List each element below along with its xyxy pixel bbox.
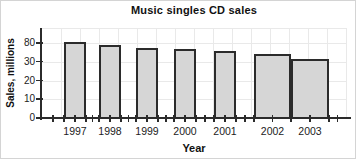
x-tick — [92, 115, 94, 122]
y-tick — [36, 98, 43, 100]
y-tick-label: 10 — [15, 94, 35, 104]
x-tick — [74, 115, 76, 122]
x-tick — [63, 115, 65, 122]
chart-canvas: Music singles CD sales Sales, millions Y… — [0, 0, 356, 159]
x-tick — [253, 115, 255, 122]
bar-2002 — [254, 54, 291, 119]
x-tick — [328, 115, 330, 122]
x-tick — [272, 115, 274, 122]
x-tick — [309, 115, 311, 122]
bar-2000 — [174, 49, 196, 119]
x-axis-title: Year — [42, 142, 346, 154]
x-tick — [128, 115, 130, 122]
x-tick — [213, 115, 215, 122]
bar-1998 — [99, 45, 121, 119]
x-tick — [337, 115, 339, 122]
x-tick — [290, 115, 292, 122]
x-tick — [173, 115, 175, 122]
y-tick — [36, 61, 43, 63]
x-tick — [146, 115, 148, 122]
y-tick-label: 0 — [15, 113, 35, 123]
plot-top-border — [42, 28, 346, 29]
y-tick — [36, 117, 43, 119]
x-tick — [98, 115, 100, 122]
x-tick — [52, 115, 54, 122]
y-tick-label: 30 — [15, 57, 35, 67]
x-tick — [195, 115, 197, 122]
grid-hline — [42, 43, 346, 44]
grid-vline — [61, 28, 62, 118]
x-tick — [109, 115, 111, 122]
x-tick — [184, 115, 186, 122]
bar-1999 — [136, 48, 158, 120]
y-tick — [36, 42, 43, 44]
x-tick — [85, 115, 87, 122]
y-tick-label: 20 — [15, 76, 35, 86]
y-axis-title: Sales, millions — [5, 38, 16, 107]
x-tick — [204, 115, 206, 122]
x-tick — [235, 115, 237, 122]
bar-2001 — [214, 51, 236, 119]
bar-2003 — [291, 59, 329, 119]
y-tick — [36, 80, 43, 82]
x-tick — [244, 115, 246, 122]
x-tick — [120, 115, 122, 122]
x-tick — [157, 115, 159, 122]
grid-vline — [251, 28, 252, 118]
bar-1997 — [64, 42, 86, 119]
y-tick-label: 80 — [15, 38, 35, 48]
grid-vline — [346, 28, 347, 118]
x-axis-line — [37, 117, 351, 119]
x-tick-label: 2001 — [203, 126, 247, 137]
x-tick — [165, 115, 167, 122]
x-tick — [135, 115, 137, 122]
x-tick-label: 2003 — [288, 126, 332, 137]
x-tick — [224, 115, 226, 122]
x-tick-label: 2000 — [163, 126, 207, 137]
chart-title: Music singles CD sales — [42, 4, 346, 16]
